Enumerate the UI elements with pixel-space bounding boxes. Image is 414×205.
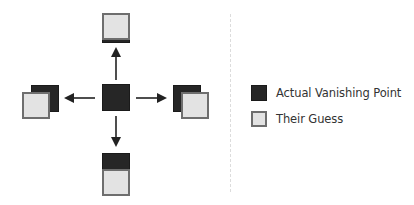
arrow-up-head-icon — [111, 47, 121, 57]
arrow-down-head-icon — [111, 137, 121, 147]
arrow-left-head-icon — [64, 93, 74, 103]
legend-swatch-actual-icon — [251, 85, 267, 101]
dashed-divider — [230, 14, 231, 192]
legend-item-actual: Actual Vanishing Point — [251, 85, 401, 101]
legend-item-guess: Their Guess — [251, 111, 343, 127]
arrow-right-head-icon — [157, 93, 167, 103]
legend-label-guess: Their Guess — [276, 112, 343, 126]
legend-swatch-guess-icon — [251, 111, 267, 127]
legend-label-actual: Actual Vanishing Point — [276, 86, 401, 100]
arrows — [0, 0, 414, 205]
